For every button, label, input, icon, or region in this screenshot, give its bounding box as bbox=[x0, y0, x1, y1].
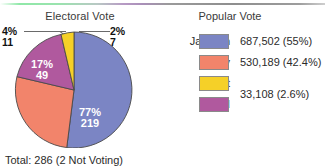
electoral-vote-title: Electoral Vote bbox=[0, 10, 160, 22]
legend-swatch-jackson bbox=[199, 34, 229, 49]
legend-value-jackson: 687,502 (55%) bbox=[240, 35, 312, 47]
legend-swatch-wirt bbox=[199, 76, 229, 91]
legend-value-clay: 530,189 (42.4%) bbox=[240, 56, 321, 68]
electoral-pie-chart: 77% 219 17% 49 bbox=[12, 28, 136, 148]
legend-value-wirt-floyd-shared: 33,108 (2.6%) bbox=[240, 88, 309, 100]
popular-vote-title: Popular Vote bbox=[160, 10, 300, 22]
pie-label-jackson-count: 219 bbox=[81, 117, 99, 129]
legend-swatch-clay bbox=[199, 55, 229, 70]
legend-row-clay: Clay 530,189 (42.4%) bbox=[160, 54, 325, 72]
pie-slice-jackson bbox=[67, 32, 132, 148]
top-gradient-rule bbox=[0, 3, 325, 5]
legend-row-jackson: Jackson 687,502 (55%) bbox=[160, 33, 325, 51]
legend-swatch-floyd bbox=[199, 97, 229, 112]
pie-svg: 77% 219 17% 49 bbox=[12, 28, 136, 148]
electoral-total-line: Total: 286 (2 Not Voting) bbox=[5, 154, 123, 166]
popular-vote-panel: Popular Vote Jackson 687,502 (55%) Clay … bbox=[160, 8, 325, 167]
pie-label-clay-count: 49 bbox=[36, 69, 48, 81]
electoral-vote-panel: Electoral Vote 4% 11 2% 7 77% 219 17% 4 bbox=[0, 8, 160, 167]
